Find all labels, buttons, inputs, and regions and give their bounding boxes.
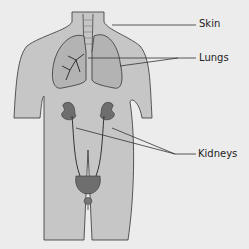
lungs-label: Lungs bbox=[199, 52, 229, 63]
skin-label: Skin bbox=[199, 18, 220, 29]
body-diagram bbox=[0, 0, 249, 249]
kidneys-label: Kidneys bbox=[198, 148, 237, 159]
